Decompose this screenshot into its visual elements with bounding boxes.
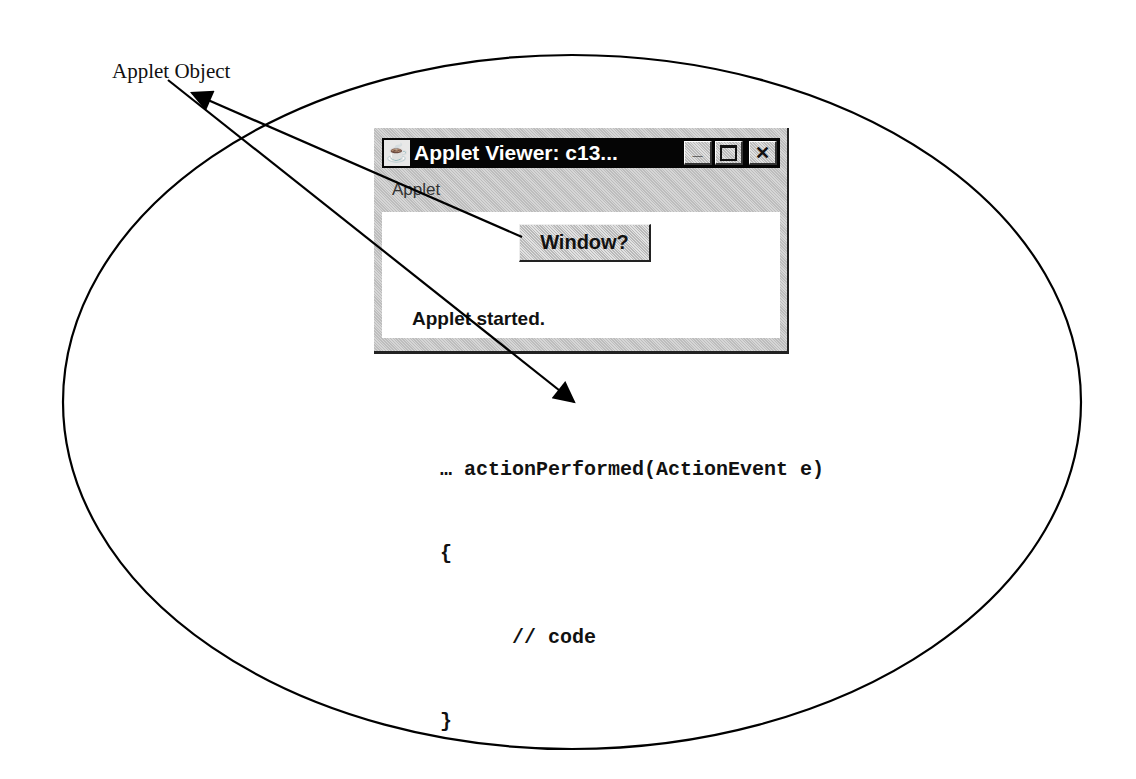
code-line-signature: … actionPerformed(ActionEvent e): [440, 456, 824, 484]
minimize-icon: _: [692, 139, 702, 160]
applet-content-area: Window? Applet started.: [382, 212, 780, 338]
minimize-button[interactable]: _: [684, 141, 712, 165]
code-line-comment: // code: [440, 624, 824, 652]
close-icon: ✕: [755, 142, 770, 164]
code-line-open-brace: {: [440, 540, 824, 568]
java-cup-icon: ☕: [384, 140, 410, 166]
code-line-close-brace: }: [440, 708, 824, 736]
window-question-button[interactable]: Window?: [519, 224, 651, 262]
code-block: … actionPerformed(ActionEvent e) { // co…: [440, 400, 824, 764]
maximize-icon: [720, 145, 737, 161]
applet-viewer-window: ☕ Applet Viewer: c13... _ ✕ Applet Windo…: [374, 128, 789, 354]
window-title: Applet Viewer: c13...: [414, 141, 684, 165]
close-button[interactable]: ✕: [749, 141, 777, 165]
menu-bar: Applet: [382, 172, 780, 212]
status-text: Applet started.: [412, 308, 545, 330]
maximize-button[interactable]: [715, 141, 743, 165]
menu-applet[interactable]: Applet: [392, 180, 440, 200]
applet-object-label: Applet Object: [112, 59, 230, 84]
window-titlebar[interactable]: ☕ Applet Viewer: c13... _ ✕: [382, 138, 780, 168]
